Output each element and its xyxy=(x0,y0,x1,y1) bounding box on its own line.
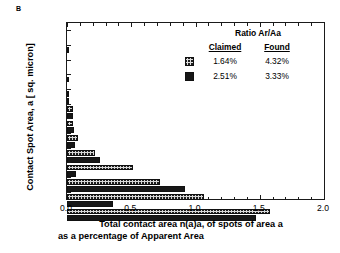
legend-title: Ratio Ar/Aa xyxy=(185,28,317,38)
x-axis-title-line2: as a percentage of Apparent Area xyxy=(52,231,330,243)
y-axis-tick xyxy=(67,89,71,90)
x-axis-tick-top xyxy=(170,23,171,26)
bar-claimed xyxy=(67,135,78,141)
x-axis-tick-top xyxy=(118,23,119,26)
x-axis-tick-top xyxy=(311,23,312,26)
y-axis-title: Contact Spot Area, a [ sq. micron] xyxy=(25,27,35,207)
x-axis-tick xyxy=(273,197,274,200)
bar-found xyxy=(67,157,100,163)
bar-claimed xyxy=(67,179,160,185)
x-axis-tick-label: 2.0 xyxy=(306,203,340,213)
legend-item: 1.64% 4.32% xyxy=(185,56,317,66)
y-axis-tick xyxy=(67,148,71,149)
x-axis-tick xyxy=(247,197,248,200)
legend-value-claimed: 2.51% xyxy=(199,71,251,81)
x-axis-tick xyxy=(285,197,286,200)
x-axis-tick-top xyxy=(183,23,184,26)
y-axis-tick xyxy=(67,45,71,46)
x-axis-tick-top xyxy=(157,23,158,26)
x-axis-tick-label: 0.5 xyxy=(113,203,147,213)
y-axis-tick xyxy=(67,30,71,31)
x-axis-tick xyxy=(311,197,312,200)
legend: Ratio Ar/Aa Claimed Found 1.64% 4.32% 2.… xyxy=(185,28,317,86)
x-axis-tick-top xyxy=(247,23,248,26)
x-axis-tick-top xyxy=(273,23,274,26)
x-axis-tick-top xyxy=(298,23,299,26)
bar-claimed xyxy=(67,47,69,53)
legend-swatch-solid-icon xyxy=(185,72,194,81)
x-axis-tick-top xyxy=(221,23,222,26)
x-axis-tick xyxy=(260,195,261,199)
y-axis-tick xyxy=(67,162,71,163)
bar-claimed xyxy=(67,91,69,97)
panel-label: B xyxy=(16,5,21,12)
bar-claimed xyxy=(67,106,73,112)
x-axis-tick-top xyxy=(106,23,107,26)
x-axis-tick-label: 0.0 xyxy=(49,203,83,213)
x-axis-tick xyxy=(324,195,325,199)
x-axis-tick-top xyxy=(234,23,235,26)
bar-claimed xyxy=(67,121,73,127)
legend-value-found: 3.33% xyxy=(251,71,303,81)
bar-claimed xyxy=(67,209,270,215)
legend-swatch-hatched-icon xyxy=(185,57,194,66)
legend-header-found: Found xyxy=(251,42,303,52)
legend-value-found: 4.32% xyxy=(251,56,303,66)
x-axis-tick xyxy=(234,197,235,200)
y-axis-tick xyxy=(67,104,71,105)
x-axis-tick-top xyxy=(260,23,261,27)
bar-found xyxy=(67,186,185,192)
figure-panel-b: B Contact Spot Area, a [ sq. micron] Tot… xyxy=(0,0,340,253)
y-axis-tick xyxy=(67,133,71,134)
legend-item: 2.51% 3.33% xyxy=(185,71,317,81)
bar-claimed xyxy=(67,77,69,83)
x-axis-tick-top xyxy=(208,23,209,26)
x-axis-tick-top xyxy=(324,23,325,27)
x-axis-tick-label: 1.0 xyxy=(178,203,212,213)
x-axis-tick-top xyxy=(131,23,132,27)
x-axis-tick-top xyxy=(80,23,81,26)
x-axis-tick-label: 1.5 xyxy=(242,203,276,213)
bar-claimed xyxy=(67,194,204,200)
bar-claimed xyxy=(67,165,133,171)
y-axis-tick xyxy=(67,177,71,178)
y-axis-tick xyxy=(67,60,71,61)
x-axis-title: Total contact area n(a)a, of spots of ar… xyxy=(52,219,330,242)
x-axis-tick-top xyxy=(285,23,286,26)
x-axis-tick-top xyxy=(196,23,197,27)
x-axis-title-line1: Total contact area n(a)a, of spots of ar… xyxy=(99,219,283,229)
y-axis-tick xyxy=(67,192,71,193)
legend-value-claimed: 1.64% xyxy=(199,56,251,66)
x-axis-tick-top xyxy=(67,23,68,27)
x-axis-tick xyxy=(221,197,222,200)
bar-claimed xyxy=(67,150,95,156)
y-axis-tick xyxy=(67,74,71,75)
x-axis-tick xyxy=(298,197,299,200)
x-axis-tick-top xyxy=(144,23,145,26)
y-axis-tick xyxy=(67,118,71,119)
x-axis-tick-top xyxy=(93,23,94,26)
legend-header-row: Claimed Found xyxy=(185,42,317,52)
x-axis-tick xyxy=(208,197,209,200)
legend-header-claimed: Claimed xyxy=(199,42,251,52)
